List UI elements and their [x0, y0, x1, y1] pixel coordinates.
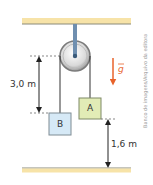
image-credit: Banco de imagens/Arquivo da editora: [142, 34, 148, 128]
block-b-label: B: [49, 113, 71, 135]
block-a-label: A: [79, 98, 101, 119]
floor: [22, 168, 131, 173]
diagram-graphics: [0, 0, 153, 185]
ceiling: [22, 18, 131, 24]
dimension-label-3m: 3,0 m: [10, 79, 36, 89]
dimension-label-1-6m: 1,6 m: [111, 139, 137, 149]
gravity-label: g: [118, 64, 124, 74]
pulley-icon: [60, 24, 90, 71]
pulley-diagram: B A 3,0 m 1,6 m g Banco de imagens/Arqui…: [0, 0, 153, 185]
